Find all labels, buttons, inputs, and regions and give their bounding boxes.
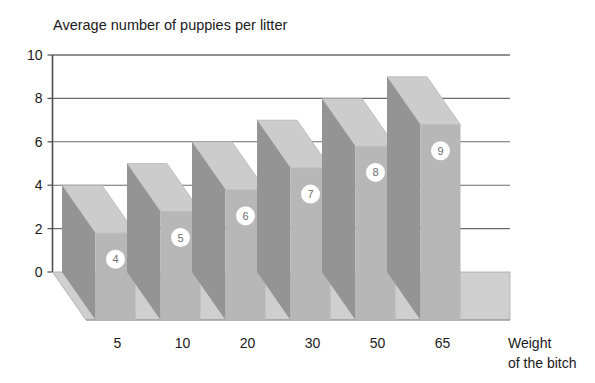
bar <box>387 77 461 320</box>
chart-title: Average number of puppies per litter <box>53 17 287 33</box>
y-axis-tick-label: 4 <box>35 177 43 193</box>
value-badge: 9 <box>431 141 450 160</box>
value-badge: 4 <box>106 250 125 269</box>
y-axis-tick-label: 0 <box>35 264 43 280</box>
value-badge-label: 5 <box>177 232 183 244</box>
3d-bar-chart: Average number of puppies per litter 024… <box>0 0 595 383</box>
x-axis-title-line1: Weight <box>508 335 551 351</box>
y-axis-tick-label: 10 <box>27 47 43 63</box>
x-axis-category-label: 10 <box>175 335 191 351</box>
bar <box>322 98 396 320</box>
x-axis-title-line2: of the bitch <box>508 355 577 371</box>
y-axis-tick-label: 2 <box>35 221 43 237</box>
x-axis-category-label: 5 <box>114 335 122 351</box>
value-badge-label: 6 <box>242 210 248 222</box>
y-axis-tick-label: 8 <box>35 90 43 106</box>
value-badge-label: 4 <box>112 253 118 265</box>
value-badge: 6 <box>236 206 255 225</box>
value-badge-label: 7 <box>307 188 313 200</box>
value-badge: 8 <box>366 163 385 182</box>
x-axis-category-label: 50 <box>370 335 386 351</box>
x-axis-category-label: 20 <box>240 335 256 351</box>
y-axis-tick-label: 6 <box>35 134 43 150</box>
value-badge-label: 8 <box>372 166 378 178</box>
x-axis-category-label: 65 <box>435 335 451 351</box>
value-badge-label: 9 <box>437 145 443 157</box>
x-axis-category-label: 30 <box>305 335 321 351</box>
value-badge: 7 <box>301 185 320 204</box>
value-badge: 5 <box>171 228 190 247</box>
chart-container: Average number of puppies per litter 024… <box>0 0 595 383</box>
